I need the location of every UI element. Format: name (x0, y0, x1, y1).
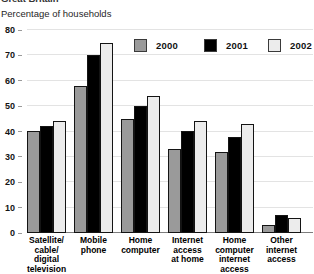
clipped-header-line: Great Britain (1, 0, 201, 4)
y-tick-10: 10 (0, 203, 27, 213)
y-tick-label-70: 70 (0, 50, 15, 60)
bar-2002-group3 (147, 96, 160, 233)
y-tick-40: 40 (0, 127, 27, 137)
gridline-60 (27, 80, 313, 81)
legend-swatch-2000 (134, 39, 147, 52)
y-tick-mark (18, 182, 22, 183)
y-tick-mark (18, 233, 22, 234)
y-tick-label-50: 50 (0, 101, 15, 111)
x-label-group6: Otherinternetaccess (247, 236, 314, 265)
legend-swatch-2002 (268, 39, 281, 52)
x-label-line: access (247, 255, 314, 265)
bar-2000-group4 (168, 149, 181, 233)
bar-2001-group3 (134, 106, 147, 233)
bar-2000-group5 (215, 152, 228, 233)
plot-area (27, 30, 313, 233)
y-tick-60: 60 (0, 76, 27, 86)
y-tick-50: 50 (0, 101, 27, 111)
gridline-80 (27, 29, 313, 30)
x-label-line: access (200, 265, 270, 274)
gridline-40 (27, 131, 313, 132)
legend-label-2001: 2001 (226, 40, 248, 51)
bar-2001-group4 (181, 131, 194, 233)
bar-2000-group2 (74, 86, 87, 233)
clipped-header-text: Great Britain (1, 0, 201, 4)
legend-item-2001: 2001 (204, 39, 248, 52)
y-tick-label-30: 30 (0, 152, 15, 162)
y-tick-mark (18, 80, 22, 81)
bar-2002-group2 (100, 43, 113, 233)
y-tick-label-20: 20 (0, 177, 15, 187)
y-tick-mark (18, 30, 22, 31)
y-tick-label-60: 60 (0, 76, 15, 86)
bar-2002-group5 (241, 124, 254, 233)
gridline-70 (27, 54, 313, 55)
gridline-50 (27, 105, 313, 106)
y-tick-mark (18, 106, 22, 107)
y-tick-30: 30 (0, 152, 27, 162)
bar-2000-group1 (27, 131, 40, 233)
y-tick-mark (18, 156, 22, 157)
bar-2001-group2 (87, 55, 100, 233)
legend-label-2000: 2000 (156, 40, 178, 51)
bar-2002-group1 (53, 121, 66, 233)
y-tick-20: 20 (0, 177, 27, 187)
y-tick-80: 80 (0, 25, 27, 35)
legend-swatch-2001 (204, 39, 217, 52)
y-tick-label-80: 80 (0, 25, 15, 35)
bar-2001-group1 (40, 126, 53, 233)
bar-2000-group6 (262, 225, 275, 233)
y-tick-mark (18, 55, 22, 56)
legend-item-2000: 2000 (134, 39, 178, 52)
y-tick-label-40: 40 (0, 127, 15, 137)
y-axis-unit-label: Percentage of households (1, 8, 111, 19)
x-label-line: television (12, 265, 82, 274)
bar-2001-group5 (228, 137, 241, 233)
y-tick-70: 70 (0, 50, 27, 60)
bar-2002-group4 (194, 121, 207, 233)
y-tick-mark (18, 131, 22, 132)
legend-label-2002: 2002 (290, 40, 312, 51)
bar-2001-group6 (275, 215, 288, 233)
y-tick-mark (18, 207, 22, 208)
bar-chart: Great Britain Percentage of households 0… (0, 0, 313, 274)
bar-2000-group3 (121, 119, 134, 233)
bar-2002-group6 (288, 218, 301, 233)
y-tick-label-10: 10 (0, 203, 15, 213)
legend-item-2002: 2002 (268, 39, 312, 52)
